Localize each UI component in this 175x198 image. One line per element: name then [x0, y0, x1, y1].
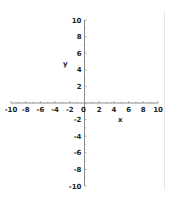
coordinate-plane: -10-8-6-4-20246810 108642-2-4-6-8-10 x y — [0, 0, 175, 198]
y-tick-label: 4 — [77, 66, 82, 74]
x-tick-label: 6 — [126, 106, 131, 114]
x-tick-label: 0 — [81, 106, 86, 114]
x-tick-label: -8 — [22, 106, 30, 114]
x-tick-label: -2 — [66, 106, 74, 114]
y-tick-label: 6 — [77, 50, 82, 58]
y-axis-title: y — [63, 60, 68, 68]
x-tick-label: 2 — [97, 106, 102, 114]
y-tick-label: 2 — [77, 83, 82, 91]
x-tick-label: 10 — [153, 106, 163, 114]
x-tick-label: 8 — [141, 106, 146, 114]
y-tick-label: -10 — [69, 183, 82, 191]
y-tick-label: 8 — [77, 33, 82, 41]
x-tick-label: -4 — [51, 106, 59, 114]
y-axis — [85, 20, 87, 186]
y-tick-label: -6 — [74, 149, 82, 157]
x-tick-label: 4 — [111, 106, 116, 114]
x-tick-label: -10 — [5, 106, 18, 114]
y-tick-label: -4 — [74, 133, 82, 141]
x-axis-title: x — [118, 116, 123, 124]
y-tick-label: -2 — [74, 116, 82, 124]
x-tick-labels: -10-8-6-4-20246810 — [5, 106, 163, 114]
y-tick-label: -8 — [74, 166, 82, 174]
x-tick-label: -6 — [37, 106, 45, 114]
y-tick-label: 10 — [72, 17, 82, 25]
